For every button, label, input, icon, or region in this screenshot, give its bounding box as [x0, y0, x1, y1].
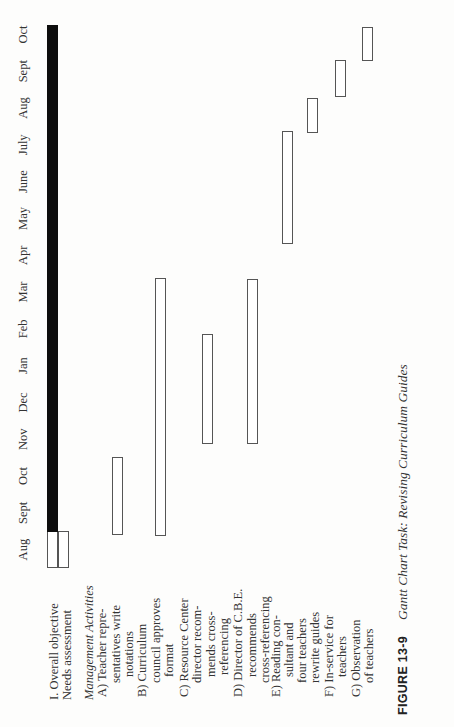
month-label: Oct — [16, 458, 31, 495]
bar-task-g-oct — [362, 27, 373, 61]
figure-title: Gantt Chart Task: Revising Curriculum Gu… — [395, 364, 411, 620]
month-label: July — [16, 126, 31, 163]
label-task-c-cont: referencing — [218, 618, 231, 675]
bar-overall-aug — [47, 531, 58, 568]
month-label: Feb — [16, 310, 31, 347]
bar-task-b — [155, 278, 166, 536]
month-label: Sept — [16, 53, 31, 90]
label-needs-assessment: Needs assessment — [61, 610, 74, 700]
month-label: June — [16, 163, 31, 200]
month-label: Dec — [16, 384, 31, 421]
label-task-b: B) Curriculum — [136, 624, 149, 697]
month-label: Aug — [16, 531, 31, 568]
label-task-a: A) Teacher repre- — [96, 609, 109, 697]
figure-number: FIGURE 13-9 — [396, 636, 410, 715]
label-task-e-cont: rewrite guides — [309, 612, 322, 683]
month-label: Jan — [16, 347, 31, 384]
bar-task-f — [307, 98, 318, 133]
month-label: Oct — [16, 16, 31, 53]
month-label: Apr — [16, 237, 31, 274]
bar-task-e — [282, 131, 293, 244]
month-label: May — [16, 200, 31, 237]
month-label: Nov — [16, 421, 31, 458]
label-task-c-cont: director recom- — [191, 606, 204, 683]
bar-needs-assessment — [58, 531, 69, 568]
bar-task-g-sept — [335, 60, 346, 97]
bar-overall-solid — [47, 25, 58, 532]
label-task-b-cont: format — [163, 644, 176, 677]
label-task-d: D) Director of C.B.E. — [232, 589, 245, 697]
month-label: Aug — [16, 90, 31, 127]
label-task-g-cont: of teachers — [363, 629, 376, 683]
bar-task-c — [202, 334, 213, 444]
month-label: Mar — [16, 274, 31, 311]
label-task-f-cont: teachers — [336, 636, 349, 677]
month-label: Sept — [16, 494, 31, 531]
gantt-page: Aug Sept Oct Nov Dec Jan Feb Mar Apr May… — [0, 0, 454, 727]
bar-task-d — [247, 279, 258, 444]
bar-task-a — [112, 457, 123, 535]
